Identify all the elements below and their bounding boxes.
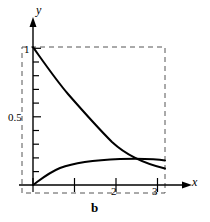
x-tick-label-2: 2 bbox=[111, 186, 117, 197]
y-axis-label: y bbox=[36, 4, 41, 16]
panel-caption: b bbox=[91, 201, 98, 214]
figure-panel-b: y x 1 0.5 2 3 b bbox=[0, 0, 210, 222]
x-axis-label: x bbox=[192, 176, 197, 188]
y-tick-label-1: 1 bbox=[24, 44, 30, 55]
plot-canvas bbox=[0, 0, 210, 222]
y-axis-minor-ticks bbox=[33, 48, 41, 171]
x-tick-label-3: 3 bbox=[152, 186, 158, 197]
decaying-curve bbox=[33, 47, 165, 168]
dashed-bounding-box bbox=[22, 47, 165, 193]
y-axis-arrow-icon bbox=[30, 17, 37, 27]
x-axis-arrow-icon bbox=[182, 182, 192, 189]
y-tick-label-0.5: 0.5 bbox=[8, 112, 22, 123]
